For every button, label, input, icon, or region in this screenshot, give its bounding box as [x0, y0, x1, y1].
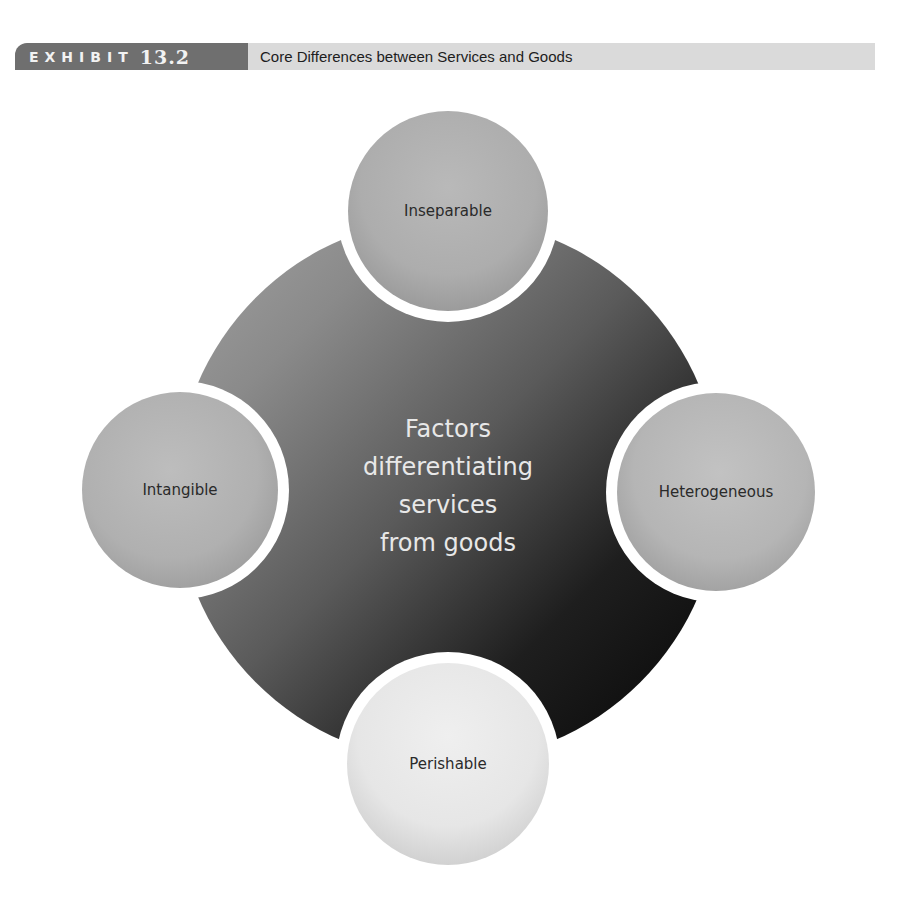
node-perishable: Perishable [347, 663, 549, 865]
central-label-line: from goods [348, 524, 548, 562]
differentiation-diagram: Factors differentiating services from go… [0, 0, 900, 908]
node-inseparable: Inseparable [348, 111, 548, 311]
central-label-line: services [348, 486, 548, 524]
node-intangible: Intangible [82, 392, 278, 588]
central-label: Factors differentiating services from go… [348, 410, 548, 562]
node-label: Perishable [409, 755, 487, 773]
node-label: Inseparable [404, 202, 492, 220]
central-label-line: differentiating [348, 448, 548, 486]
node-label: Heterogeneous [659, 483, 774, 501]
node-label: Intangible [142, 481, 217, 499]
node-heterogeneous: Heterogeneous [617, 393, 815, 591]
central-label-line: Factors [348, 410, 548, 448]
